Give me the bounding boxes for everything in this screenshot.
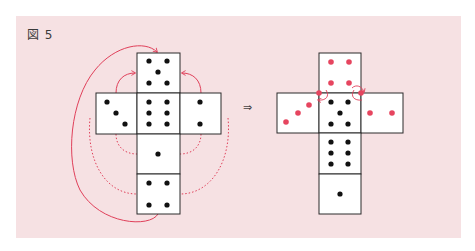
face-below-6 [319, 133, 361, 174]
right-net [277, 53, 403, 214]
face-top-4-red [319, 53, 361, 93]
dotted-arc-left-to-below [116, 134, 137, 154]
dice-net-diagram [0, 0, 475, 251]
left-net [72, 46, 229, 222]
face-center-6 [137, 93, 180, 134]
solid-arc-right-to-top [182, 73, 201, 93]
face-bottom-4 [137, 174, 180, 214]
dotted-arc-right-to-below [180, 134, 201, 154]
solid-arc-left-to-top [116, 73, 135, 93]
left-faces [96, 53, 221, 214]
face-right-2 [180, 93, 221, 134]
right-faces [277, 53, 403, 214]
